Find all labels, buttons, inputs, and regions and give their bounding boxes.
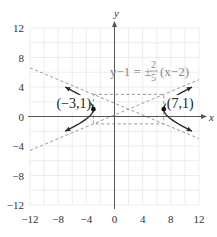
x-axis-arrow-icon <box>201 114 207 119</box>
equation-fraction-denominator: 5 <box>151 72 156 83</box>
x-tick-label: 4 <box>140 213 146 225</box>
vertex-point <box>161 107 166 112</box>
y-axis-arrow-icon <box>112 21 117 27</box>
y-tick-label: 8 <box>19 52 25 64</box>
vertex-point <box>91 107 96 112</box>
x-tick-label: 0 <box>112 213 118 225</box>
vertex-label: (−3,1) <box>56 96 91 112</box>
hyperbola-chart: −12−8−40481212840−4−8−12 (−3,1)(7,1) y−1… <box>0 0 217 237</box>
vertex-points: (−3,1)(7,1) <box>55 95 195 112</box>
y-tick-label: 12 <box>13 22 24 34</box>
x-tick-label: −4 <box>80 213 92 225</box>
asymptote-equation-label: y−1 = ± 2 5 (x−2) <box>110 59 189 83</box>
x-tick-label: 8 <box>168 213 174 225</box>
equation-fraction-numerator: 2 <box>151 59 156 70</box>
axes <box>28 21 207 209</box>
y-tick-label: 0 <box>19 111 25 123</box>
equation-lhs: y−1 = ± <box>110 64 151 79</box>
y-tick-label: −8 <box>12 170 24 182</box>
x-tick-label: 12 <box>193 213 204 225</box>
x-tick-label: −12 <box>21 213 38 225</box>
equation-rhs: (x−2) <box>160 64 189 79</box>
y-tick-label: −4 <box>12 140 24 152</box>
tick-labels: −12−8−40481212840−4−8−12 <box>7 22 205 225</box>
y-tick-label: 4 <box>19 81 25 93</box>
y-axis-label: y <box>113 7 119 19</box>
vertex-label: (7,1) <box>167 96 194 112</box>
y-tick-label: −12 <box>7 199 24 211</box>
x-axis-label: x <box>208 111 214 123</box>
x-tick-label: −8 <box>52 213 64 225</box>
